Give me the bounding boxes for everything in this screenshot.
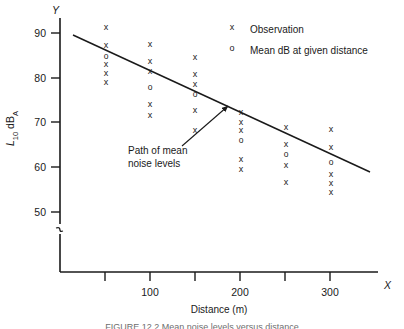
y-axis-title: L10 dBA — [4, 94, 19, 164]
data-point-mean: o — [148, 82, 153, 92]
figure-caption: FIGURE 12.2 Mean noise levels versus dis… — [0, 320, 404, 329]
data-point-mean: o — [193, 89, 198, 99]
data-point-x: x — [148, 39, 153, 49]
data-point-x: x — [104, 40, 109, 50]
data-point-x: x — [284, 177, 289, 187]
y-tick-label-60: 60 — [34, 161, 46, 173]
data-point-x: x — [239, 125, 244, 135]
data-point-x: x — [193, 52, 198, 62]
annotation-line-1: Path of mean — [128, 145, 187, 156]
data-point-x: x — [104, 77, 109, 87]
data-point-x: x — [104, 22, 109, 32]
annotation-line-2: noise levels — [128, 158, 180, 169]
legend-label-mean: Mean dB at given distance — [250, 45, 368, 56]
data-point-mean: o — [239, 135, 244, 145]
data-point-x: x — [193, 105, 198, 115]
y-axis-title-symbol: L — [4, 140, 16, 146]
legend-marker-mean: o — [229, 43, 234, 53]
x-tick-label-200: 200 — [231, 286, 249, 298]
y-axis-break-icon — [56, 228, 63, 232]
y-tick-label-80: 80 — [34, 72, 46, 84]
data-point-x: x — [239, 107, 244, 117]
legend-marker-observation: x — [230, 22, 235, 32]
legend: x Observation o Mean dB at given distanc… — [229, 22, 368, 56]
data-point-x: x — [284, 122, 289, 132]
data-point-x: x — [148, 56, 153, 66]
data-point-x: x — [193, 79, 198, 89]
x-tick-label-300: 300 — [321, 286, 339, 298]
data-point-mean: o — [284, 149, 289, 159]
data-point-x: x — [329, 142, 334, 152]
y-tick-label-90: 90 — [34, 27, 46, 39]
y-tick-label-70: 70 — [34, 116, 46, 128]
x-axis-title: Distance (m) — [191, 304, 248, 315]
y-tick-label-50: 50 — [34, 206, 46, 218]
legend-label-observation: Observation — [250, 24, 304, 35]
data-point-x: x — [329, 187, 334, 197]
data-point-x: x — [284, 160, 289, 170]
data-point-x: x — [239, 154, 244, 164]
data-point-x: x — [239, 164, 244, 174]
noise-level-scatter-figure: 90 80 70 60 50 100 200 300 Y X Distance … — [0, 0, 404, 329]
x-tick-label-100: 100 — [141, 286, 159, 298]
y-axis-title-subscript: 10 — [11, 132, 20, 140]
y-axis-title-wrapper: L10 dBA — [2, 96, 22, 166]
chart-canvas: 90 80 70 60 50 100 200 300 Y X Distance … — [0, 0, 404, 329]
y-axis-name: Y — [52, 4, 60, 16]
y-axis-title-unit-subscript: A — [11, 111, 20, 116]
annotation-arrow — [182, 106, 228, 146]
data-point-mean: o — [329, 157, 334, 167]
data-point-x: x — [284, 139, 289, 149]
y-axis-title-unit: dB — [4, 116, 16, 132]
x-axis-name: X — [383, 279, 392, 291]
data-point-x: x — [148, 110, 153, 120]
data-point-x: x — [148, 99, 153, 109]
data-point-x: x — [329, 124, 334, 134]
data-point-x: x — [193, 69, 198, 79]
data-point-x: x — [148, 66, 153, 76]
